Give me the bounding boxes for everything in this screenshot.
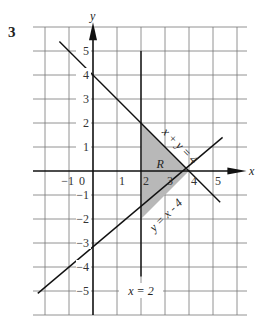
y-tick-label: −5 — [76, 284, 89, 298]
x-tick-label: 4 — [191, 174, 197, 188]
region-label: R — [156, 157, 165, 171]
y-tick-label: 3 — [83, 92, 89, 106]
x-tick-label: 1 — [119, 174, 125, 188]
y-tick-label: 5 — [83, 44, 89, 58]
x-tick-label: −1 — [61, 174, 74, 188]
y-axis-label: y — [89, 9, 96, 23]
x-tick-label: 2 — [143, 174, 149, 188]
y-tick-label: −1 — [76, 188, 89, 202]
coordinate-plane: yx0−11234554321−1−2−3−4−5Rx + y = 4y = x… — [0, 0, 260, 334]
y-tick-label: 1 — [83, 140, 89, 154]
origin-label: 0 — [79, 174, 85, 188]
y-tick-label: 2 — [83, 116, 89, 130]
x-axis-label: x — [248, 164, 255, 178]
y-tick-label: −2 — [76, 212, 89, 226]
y-axis-arrow-icon — [89, 22, 97, 40]
boundary-lines — [38, 41, 223, 293]
x-tick-label: 5 — [215, 174, 221, 188]
line3-equation-label: x = 2 — [127, 284, 153, 298]
y-tick-label: −4 — [76, 260, 89, 274]
y-tick-label: −3 — [76, 236, 89, 250]
x-tick-label: 3 — [167, 174, 173, 188]
y-tick-label: 4 — [83, 68, 89, 82]
